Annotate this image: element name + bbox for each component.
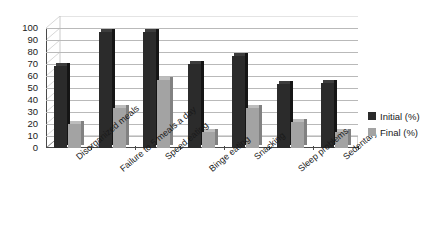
bar-final <box>68 124 81 148</box>
legend-item-final: Final (%) <box>368 124 442 140</box>
legend-swatch-final-icon <box>368 128 376 136</box>
y-axis-tick-label: 90 <box>27 35 38 45</box>
y-axis-tick-label: 30 <box>27 107 38 117</box>
bar-face <box>202 132 215 148</box>
bar-side-face <box>215 129 218 145</box>
y-axis: 1009080706050403020100 <box>0 22 42 154</box>
bar-group <box>269 28 314 148</box>
bar-final <box>202 132 215 148</box>
bar-face <box>143 32 156 148</box>
bar-face <box>68 124 81 148</box>
legend-label-final: Final (%) <box>380 127 418 138</box>
x-axis-category-labels: Disorganized mealsFailure to 5 meals a d… <box>46 150 376 246</box>
y-axis-tick-label: 10 <box>27 131 38 141</box>
bar-side-face <box>259 105 262 145</box>
chart-legend: Initial (%) Final (%) <box>368 108 442 140</box>
y-axis-tick-label: 60 <box>27 71 38 81</box>
legend-swatch-initial-icon <box>368 112 376 120</box>
y-axis-tick-label: 50 <box>27 83 38 93</box>
legend-label-initial: Initial (%) <box>380 111 420 122</box>
legend-item-initial: Initial (%) <box>368 108 442 124</box>
bar-side-face <box>81 121 84 145</box>
y-axis-tick-label: 80 <box>27 47 38 57</box>
bar-face <box>54 66 67 148</box>
bar-group <box>46 28 91 148</box>
bar-group <box>313 28 358 148</box>
y-axis-tick-label: 70 <box>27 59 38 69</box>
bar-initial <box>54 66 67 148</box>
y-axis-tick-label: 0 <box>33 143 38 153</box>
bar-face <box>291 122 304 148</box>
bar-initial <box>143 32 156 148</box>
bar-final <box>291 122 304 148</box>
y-axis-tick-label: 20 <box>27 119 38 129</box>
y-axis-tick-label: 40 <box>27 95 38 105</box>
y-axis-tick-label: 100 <box>22 23 38 33</box>
bar-chart: 1009080706050403020100 Disorganized meal… <box>0 0 442 246</box>
bar-side-face <box>304 119 307 145</box>
bar-group <box>224 28 269 148</box>
